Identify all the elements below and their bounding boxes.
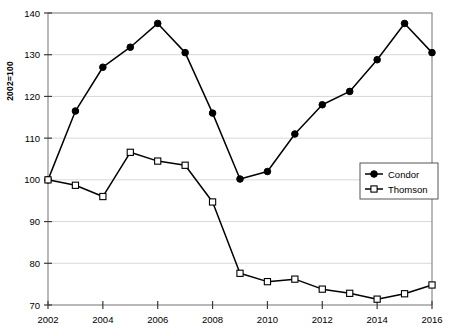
y-axis-tick-label: 110 [25, 133, 40, 144]
y-axis-tick-label: 140 [24, 8, 40, 19]
data-point-marker [127, 149, 133, 155]
data-point-marker [319, 101, 326, 108]
x-axis-tick-label: 2002 [37, 314, 58, 325]
y-axis-tick-label: 100 [24, 174, 40, 185]
data-point-marker [264, 168, 271, 175]
x-axis-tick-label: 2006 [147, 314, 168, 325]
y-axis-tick-label: 70 [29, 300, 40, 311]
data-point-marker [45, 177, 51, 183]
legend-label: Condor [388, 169, 419, 180]
data-point-marker [371, 171, 378, 178]
data-point-marker [182, 49, 189, 56]
legend-label: Thomson [388, 184, 428, 195]
x-axis-tick-label: 2012 [312, 314, 333, 325]
data-point-marker [72, 182, 78, 188]
data-point-marker [182, 162, 188, 168]
chart-container: 7080901001101201301402002200420062008201… [0, 0, 449, 333]
data-point-marker [127, 44, 134, 51]
x-axis-tick-label: 2016 [421, 314, 442, 325]
data-point-marker [100, 64, 107, 71]
y-axis-tick-label: 90 [29, 216, 40, 227]
data-point-marker [264, 279, 270, 285]
line-chart: 7080901001101201301402002200420062008201… [0, 0, 449, 333]
x-axis-tick-label: 2004 [92, 314, 113, 325]
x-axis-tick-label: 2014 [367, 314, 388, 325]
data-point-marker [209, 199, 215, 205]
x-axis-tick-label: 2008 [202, 314, 223, 325]
data-point-marker [429, 49, 436, 56]
data-point-marker [346, 88, 353, 95]
data-point-marker [347, 290, 353, 296]
y-axis-tick-label: 80 [29, 258, 40, 269]
y-axis-tick-label: 120 [24, 91, 40, 102]
data-point-marker [401, 291, 407, 297]
data-point-marker [237, 176, 244, 183]
data-point-marker [292, 131, 299, 138]
data-point-marker [374, 56, 381, 63]
data-point-marker [429, 282, 435, 288]
data-point-marker [72, 108, 79, 115]
y-axis-tick-label: 130 [24, 49, 40, 60]
plot-frame [48, 13, 432, 305]
data-point-marker [154, 20, 161, 27]
series-condor [45, 20, 436, 183]
data-point-marker [292, 276, 298, 282]
data-point-marker [401, 20, 408, 27]
data-point-marker [319, 286, 325, 292]
legend: CondorThomson [360, 163, 438, 199]
data-point-marker [237, 270, 243, 276]
data-point-marker [155, 158, 161, 164]
data-point-marker [100, 193, 106, 199]
y-axis-title: 2002=100 [5, 61, 15, 101]
data-point-marker [374, 296, 380, 302]
data-point-marker [371, 186, 377, 192]
data-point-marker [209, 110, 216, 117]
series-line [48, 23, 432, 179]
x-axis-tick-label: 2010 [257, 314, 278, 325]
